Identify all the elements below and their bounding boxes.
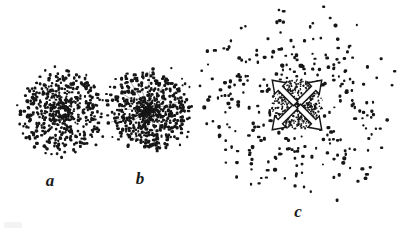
dot-cluster-c bbox=[191, 0, 403, 211]
stipple-field bbox=[102, 67, 193, 152]
figure-illustration: abc bbox=[0, 0, 403, 231]
panel-label-c: c bbox=[286, 203, 310, 220]
dot-cluster-b bbox=[92, 54, 204, 166]
paper-smudge bbox=[4, 222, 22, 228]
panel-label-b: b bbox=[128, 170, 152, 187]
panel-label-a: a bbox=[38, 172, 62, 189]
